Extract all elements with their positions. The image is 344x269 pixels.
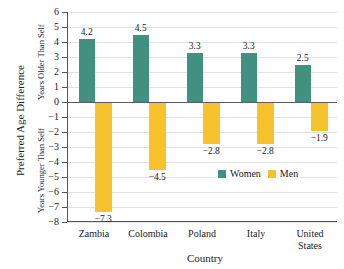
bar-value-label-men: −4.5 — [140, 172, 175, 182]
x-axis-category-united-states: UnitedStates — [276, 228, 344, 251]
y-axis-tick-label: 4 — [19, 37, 59, 47]
bar-women — [133, 35, 150, 103]
y-axis-tick-label: 5 — [19, 22, 59, 32]
legend-item-men: Men — [268, 169, 298, 179]
y-axis-tick-label: −8 — [19, 217, 59, 227]
y-axis-tick-label: 0 — [19, 97, 59, 107]
y-axis-tick-label: −3 — [19, 142, 59, 152]
bar-value-label-men: −7.3 — [86, 214, 121, 224]
x-axis-title: Country — [0, 252, 344, 264]
bar-value-label-men: −1.9 — [302, 133, 337, 143]
y-axis-tick-label: −7 — [19, 202, 59, 212]
y-axis-lower-subtitle: Years Younger Than Self — [36, 128, 46, 213]
plot-area: 4.2−7.34.5−4.53.3−2.83.3−2.82.5−1.9 — [67, 12, 337, 222]
y-axis-tick-label: −1 — [19, 112, 59, 122]
bar-women — [187, 53, 204, 103]
y-axis-tick-label: −2 — [19, 127, 59, 137]
plot-inner: 4.2−7.34.5−4.53.3−2.83.3−2.82.5−1.9 — [68, 12, 337, 221]
bar-value-label-women: 3.3 — [232, 41, 267, 51]
x-axis-title-text: Country — [187, 252, 223, 264]
bar-men — [203, 102, 220, 144]
legend-label-men: Men — [280, 169, 298, 179]
chart-legend: Women Men — [216, 168, 300, 180]
bar-value-label-women: 2.5 — [286, 53, 321, 63]
y-axis-tick-label: −5 — [19, 172, 59, 182]
bar-value-label-women: 4.5 — [124, 23, 159, 33]
bar-value-label-men: −2.8 — [248, 146, 283, 156]
zero-baseline — [68, 102, 337, 103]
bar-women — [241, 53, 258, 103]
y-axis-tick — [62, 222, 67, 223]
bar-value-label-women: 4.2 — [70, 27, 105, 37]
bar-chart: Preferred Age Difference Years Older Tha… — [0, 0, 344, 269]
bar-men — [257, 102, 274, 144]
bar-men — [149, 102, 166, 170]
y-axis-tick-label: 3 — [19, 52, 59, 62]
y-axis-tick-label: 6 — [19, 7, 59, 17]
bar-women — [79, 39, 96, 102]
legend-swatch-women — [218, 170, 226, 178]
bar-women — [295, 65, 312, 103]
y-axis-tick-label: −4 — [19, 157, 59, 167]
bar-men — [95, 102, 112, 212]
y-axis-tick-label: −6 — [19, 187, 59, 197]
legend-item-women: Women — [218, 169, 261, 179]
gridline — [68, 12, 337, 13]
gridline — [68, 27, 337, 28]
legend-label-women: Women — [230, 169, 261, 179]
bar-value-label-men: −2.8 — [194, 146, 229, 156]
bar-value-label-women: 3.3 — [178, 41, 213, 51]
legend-swatch-men — [268, 170, 276, 178]
bar-men — [311, 102, 328, 131]
y-axis-tick-label: 1 — [19, 82, 59, 92]
y-axis-tick-label: 2 — [19, 67, 59, 77]
